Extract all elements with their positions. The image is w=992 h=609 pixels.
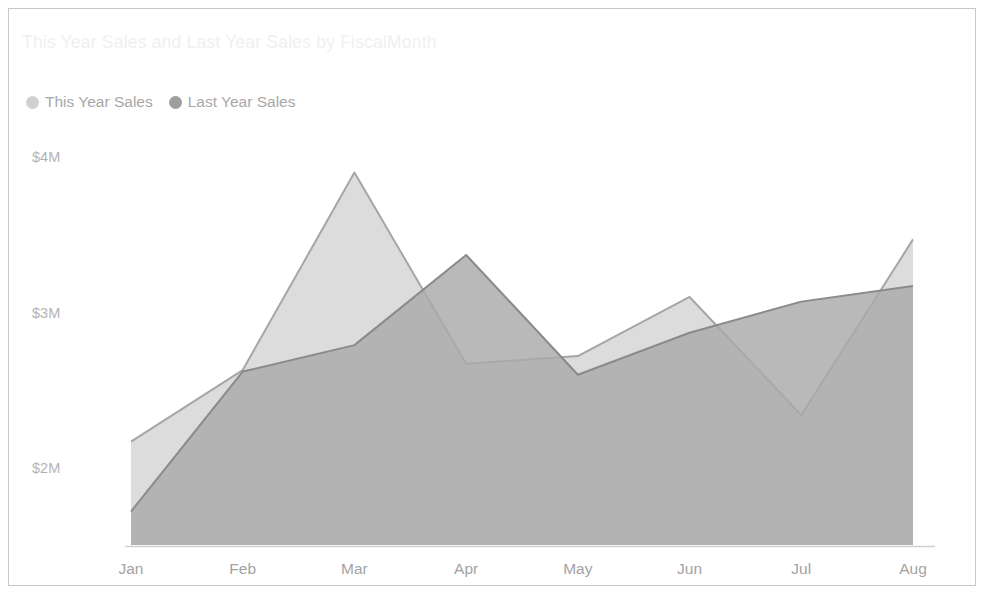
legend-item-last-year-sales[interactable]: Last Year Sales — [169, 93, 296, 111]
x-axis-tick-label: Apr — [454, 560, 478, 578]
circle-marker-icon — [169, 96, 182, 109]
y-axis-tick-label: $4M — [32, 149, 60, 165]
x-axis-tick-label: May — [563, 560, 592, 578]
y-axis-tick-label: $3M — [32, 305, 60, 321]
y-axis-tick-label: $2M — [32, 460, 60, 476]
chart-legend[interactable]: This Year Sales Last Year Sales — [26, 91, 295, 113]
x-axis-tick-label: Mar — [341, 560, 368, 578]
x-axis-tick-label: Feb — [229, 560, 256, 578]
legend-item-label: This Year Sales — [45, 93, 153, 111]
x-axis-tick-label: Aug — [899, 560, 927, 578]
legend-item-this-year-sales[interactable]: This Year Sales — [26, 93, 153, 111]
chart-title: This Year Sales and Last Year Sales by F… — [22, 32, 437, 53]
x-axis-tick-label: Jan — [119, 560, 144, 578]
x-axis-tick-label: Jul — [791, 560, 811, 578]
circle-marker-icon — [26, 96, 39, 109]
x-axis-tick-label: Jun — [677, 560, 702, 578]
legend-item-label: Last Year Sales — [188, 93, 296, 111]
